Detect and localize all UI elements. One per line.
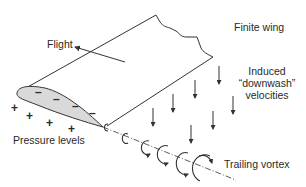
plus-sign: + [11,101,18,115]
finite-wing-label: Finite wing [234,21,284,33]
pressure-levels-label: Pressure levels [13,134,85,146]
vortex-swirl-icon [122,134,128,144]
vortex-swirl-icon [192,155,210,181]
finite-wing-diagram: – – – – + + + + Flight Finite wing Induc… [0,0,306,187]
flight-label: Flight [47,38,73,50]
downwash-label-line2: “downwash” [239,77,296,89]
plus-sign: + [46,116,53,130]
vortex-swirl-icon [141,141,150,155]
plus-sign: + [26,109,33,123]
flight-arrow-icon [75,47,125,62]
minus-sign: – [35,85,42,99]
downwash-arrows [153,66,233,143]
minus-sign: – [72,99,79,113]
minus-sign: – [53,92,60,106]
minus-sign: – [89,106,96,120]
downwash-label-line1: Induced [248,65,286,77]
trailing-vortex-label: Trailing vortex [224,158,290,170]
wing-planform [17,15,213,126]
downwash-label-line3: velocities [245,89,288,101]
vortex-swirl-icon [105,124,109,131]
vortex-swirl-icon [176,153,188,175]
vortex-swirl-icon [157,146,168,164]
trailing-vortex-swirls [105,124,213,181]
